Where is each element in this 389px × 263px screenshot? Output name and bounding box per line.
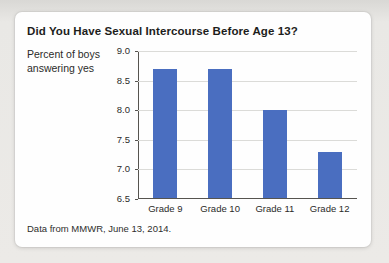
bar-grade-9	[153, 69, 177, 198]
y-tick-label: 8.0	[98, 105, 130, 115]
y-tick	[135, 199, 138, 200]
y-tick-label: 7.0	[98, 164, 130, 174]
y-tick-label: 9.0	[98, 46, 130, 56]
bar-grade-12	[318, 152, 342, 198]
x-tick-label-grade-12: Grade 12	[310, 203, 350, 214]
gridline	[138, 51, 357, 52]
y-tick-label: 8.5	[98, 76, 130, 86]
x-tick-label-grade-11: Grade 11	[255, 203, 294, 214]
y-axis-line	[138, 51, 139, 199]
chart-title: Did You Have Sexual Intercourse Before A…	[27, 25, 298, 37]
y-tick	[135, 110, 138, 111]
bar-grade-11	[263, 110, 287, 198]
y-tick	[135, 140, 138, 141]
chart-card: Did You Have Sexual Intercourse Before A…	[15, 12, 371, 247]
bar-grade-10	[208, 69, 232, 198]
plot-area: 9.08.58.07.57.06.5Grade 9Grade 10Grade 1…	[138, 51, 357, 199]
x-axis-line	[138, 198, 357, 199]
y-tick	[135, 81, 138, 82]
source-caption: Data from MMWR, June 13, 2014.	[27, 223, 171, 234]
x-tick-label-grade-9: Grade 9	[148, 203, 182, 214]
y-tick	[135, 51, 138, 52]
y-tick-label: 7.5	[98, 135, 130, 145]
x-tick-label-grade-10: Grade 10	[200, 203, 240, 214]
y-axis-note: Percent of boys answering yes	[27, 47, 100, 75]
y-tick-label: 6.5	[98, 194, 130, 204]
y-tick	[135, 169, 138, 170]
